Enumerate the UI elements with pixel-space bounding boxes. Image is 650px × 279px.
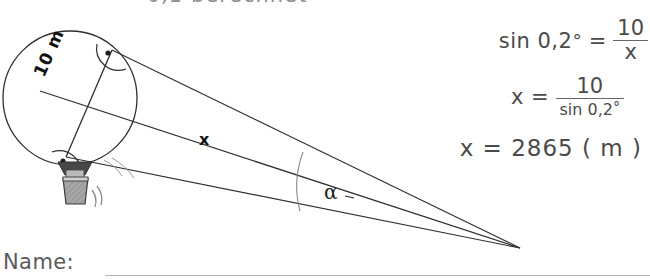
equation-1-numerator: 10	[613, 18, 648, 40]
angle-label: α	[324, 180, 338, 204]
equation-1-degree: °	[572, 30, 581, 51]
balloon-envelope-circle	[3, 31, 137, 165]
equation-2-denominator-text: sin 0,2	[560, 100, 613, 119]
equation-2-numerator: 10	[572, 76, 607, 98]
equation-1: sin 0,2° = 10 x	[348, 18, 648, 64]
worksheet-page: 0,1 berechnet	[0, 0, 650, 279]
balloon-basket	[63, 178, 88, 204]
name-label: Name:	[3, 250, 74, 274]
equation-1-lhs: sin 0,2	[499, 29, 573, 53]
math-work-block: sin 0,2° = 10 x x = 10 sin 0,2° x = 2865…	[348, 14, 648, 161]
equation-2-lhs: x	[511, 85, 524, 109]
equation-2-equals: =	[531, 85, 549, 109]
alpha-tick	[345, 196, 354, 198]
basket-motion-lines	[92, 186, 102, 207]
equation-2: x = 10 sin 0,2°	[348, 76, 648, 119]
right-angle-dot-top	[105, 50, 110, 55]
distance-label: x	[199, 130, 210, 149]
name-field-row: Name:	[3, 250, 648, 279]
angle-arc	[297, 152, 303, 211]
equation-1-fraction: 10 x	[613, 18, 648, 64]
equation-2-degree: °	[613, 99, 620, 115]
equation-1-equals: =	[589, 29, 607, 53]
sight-line-lower	[66, 157, 520, 248]
equation-3-text: x = 2865 ( m )	[460, 135, 642, 161]
equation-2-fraction: 10 sin 0,2°	[556, 76, 625, 119]
equation-2-denominator: sin 0,2°	[556, 99, 625, 118]
equation-1-denominator: x	[620, 41, 640, 63]
name-write-in-line[interactable]	[105, 275, 650, 276]
equation-3: x = 2865 ( m )	[348, 135, 648, 161]
basket-rim	[63, 177, 88, 181]
